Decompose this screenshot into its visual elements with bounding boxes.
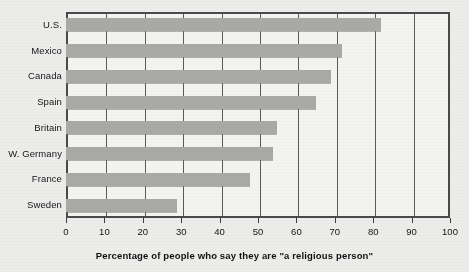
category-label: Spain: [0, 96, 62, 107]
x-tick-label: 100: [442, 226, 458, 237]
bar-spain: [66, 96, 316, 109]
tick-mark-70: [335, 218, 336, 223]
tick-mark-20: [143, 218, 144, 223]
bar-canada: [66, 70, 331, 83]
bar-row: [66, 89, 450, 115]
category-label: Britain: [0, 122, 62, 133]
bar-france: [66, 173, 250, 186]
bar-row: [66, 64, 450, 90]
bar-row: [66, 167, 450, 193]
bar-sweden: [66, 199, 177, 212]
category-label: France: [0, 173, 62, 184]
category-axis-labels: U.S.MexicoCanadaSpainBritainW. GermanyFr…: [0, 12, 62, 218]
x-tick-label: 20: [138, 226, 149, 237]
bar-row: [66, 115, 450, 141]
x-tick-label: 70: [330, 226, 341, 237]
x-axis-tick-marks: [66, 218, 450, 224]
x-tick-label: 40: [214, 226, 225, 237]
tick-mark-60: [296, 218, 297, 223]
tick-mark-40: [220, 218, 221, 223]
bar-w-germany: [66, 147, 273, 160]
religious-person-bar-chart: U.S.MexicoCanadaSpainBritainW. GermanyFr…: [0, 0, 469, 272]
tick-mark-80: [373, 218, 374, 223]
bar-row: [66, 12, 450, 38]
bars-layer: [66, 12, 450, 218]
tick-mark-90: [412, 218, 413, 223]
category-label: Sweden: [0, 199, 62, 210]
tick-mark-10: [104, 218, 105, 223]
category-label: W. Germany: [0, 148, 62, 159]
x-tick-label: 50: [253, 226, 264, 237]
bar-row: [66, 192, 450, 218]
bar-mexico: [66, 44, 342, 57]
bar-britain: [66, 121, 277, 134]
x-tick-label: 90: [406, 226, 417, 237]
x-tick-label: 10: [99, 226, 110, 237]
category-label: Mexico: [0, 45, 62, 56]
tick-mark-50: [258, 218, 259, 223]
bar-u-s: [66, 18, 381, 31]
x-tick-label: 60: [291, 226, 302, 237]
x-tick-label: 80: [368, 226, 379, 237]
category-label: Canada: [0, 70, 62, 81]
x-tick-label: 0: [63, 226, 68, 237]
tick-mark-0: [66, 218, 67, 223]
bar-row: [66, 141, 450, 167]
x-axis-caption: Percentage of people who say they are "a…: [0, 250, 469, 261]
tick-mark-30: [181, 218, 182, 223]
category-label: U.S.: [0, 19, 62, 30]
tick-mark-100: [450, 218, 451, 223]
bar-row: [66, 38, 450, 64]
x-tick-label: 30: [176, 226, 187, 237]
x-axis-tick-labels: 0102030405060708090100: [0, 226, 469, 240]
